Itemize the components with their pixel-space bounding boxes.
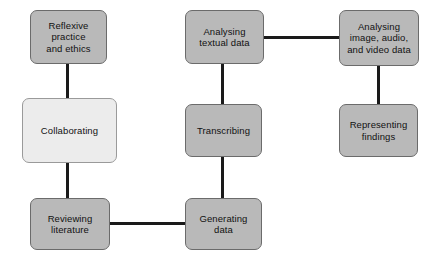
connector-generating-data-to-transcribing — [221, 155, 224, 200]
connector-transcribing-to-analysing-textual-data — [221, 62, 224, 106]
node-label-reviewing-literature: Reviewing literature — [45, 213, 96, 236]
node-label-reflexive-practice-and-ethics: Reflexive practice and ethics — [43, 20, 93, 55]
node-analysing-textual-data[interactable]: Analysing textual data — [185, 10, 264, 64]
connector-reflexive-to-collaborating — [66, 63, 69, 100]
process-diagram: Reflexive practice and ethicsCollaborati… — [0, 0, 439, 263]
node-reflexive-practice-and-ethics[interactable]: Reflexive practice and ethics — [30, 10, 107, 64]
connector-reviewing-literature-to-generating-data — [108, 222, 187, 225]
node-analysing-image-audio-and-video-data[interactable]: Analysing image, audio, and video data — [339, 10, 419, 66]
connector-analysing-textual-data-to-analysing-image-audio — [262, 36, 341, 39]
node-collaborating[interactable]: Collaborating — [22, 98, 117, 163]
node-label-transcribing: Transcribing — [194, 125, 253, 137]
node-transcribing[interactable]: Transcribing — [185, 104, 262, 157]
node-label-analysing-image-audio-and-video-data: Analysing image, audio, and video data — [344, 21, 414, 56]
node-representing-findings[interactable]: Representing findings — [339, 104, 418, 157]
node-label-analysing-textual-data: Analysing textual data — [196, 26, 252, 49]
node-reviewing-literature[interactable]: Reviewing literature — [30, 198, 110, 250]
node-generating-data[interactable]: Generating data — [185, 198, 262, 250]
connector-collaborating-to-reviewing-literature — [66, 161, 69, 200]
connector-analysing-image-audio-to-representing-findings — [377, 64, 380, 106]
node-label-generating-data: Generating data — [196, 213, 250, 236]
node-label-representing-findings: Representing findings — [347, 119, 411, 142]
node-label-collaborating: Collaborating — [38, 125, 101, 137]
